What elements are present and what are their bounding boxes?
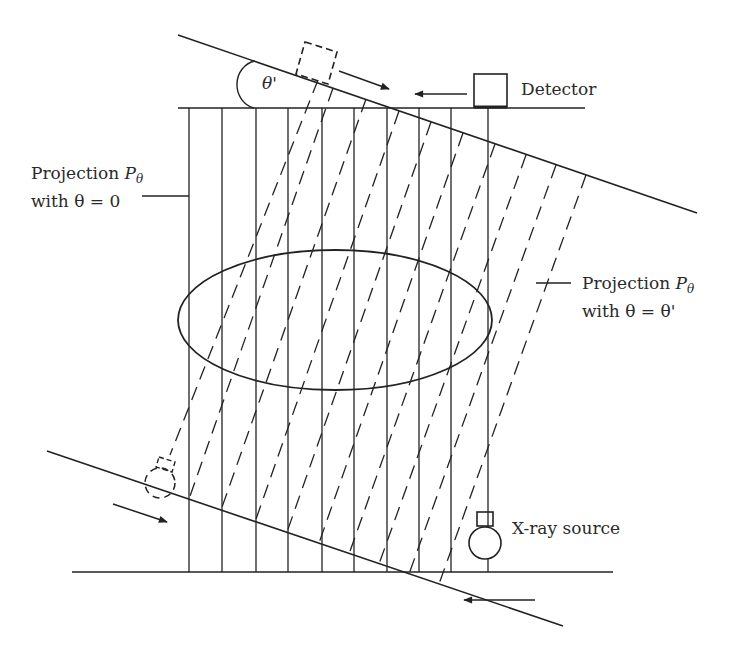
rotated-xray-source-housing-icon (156, 457, 175, 472)
detector-label: Detector (521, 78, 596, 100)
projection-subscript: θ (136, 172, 143, 186)
projection-theta-0-condition: with θ = 0 (31, 191, 120, 211)
projection-subscript: θ (687, 282, 694, 296)
arrow-detector-rotation-icon (339, 71, 389, 89)
angle-arc (237, 61, 255, 108)
projection-symbol: P (676, 273, 687, 293)
projection-symbol: P (125, 163, 136, 183)
xray-source-icon (469, 527, 501, 559)
xray-source-housing-icon (477, 512, 493, 526)
projection-theta-prime-rays (170, 80, 586, 584)
projection-theta-prime-condition: with θ = θ' (582, 301, 675, 321)
detector-icon (474, 74, 507, 107)
projection-theta-prime-title: Projection (582, 273, 676, 293)
angle-label: θ' (262, 72, 277, 94)
projection-theta-prime-label: Projection Pθ with θ = θ' (582, 272, 694, 322)
object-ellipse (178, 250, 492, 390)
projection-geometry-diagram (0, 0, 733, 665)
projection-theta-0-title: Projection (31, 163, 125, 183)
projection-theta-0-rays (189, 108, 488, 572)
arrow-source-rotation-icon (113, 504, 167, 522)
xray-source-label: X-ray source (512, 517, 620, 539)
projection-theta-0-label: Projection Pθ with θ = 0 (31, 162, 143, 212)
